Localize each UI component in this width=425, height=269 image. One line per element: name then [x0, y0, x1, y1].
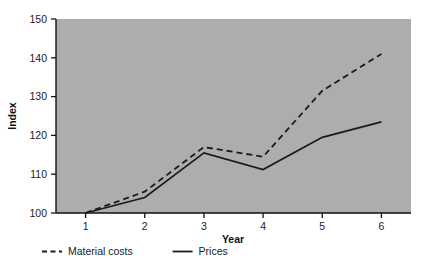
y-tick-label-100: 100 — [29, 207, 47, 219]
line-chart: 100110120130140150 123456 Index Year Mat… — [0, 0, 425, 269]
y-tick-label-150: 150 — [29, 13, 47, 25]
y-tick-label-110: 110 — [30, 168, 47, 180]
chart-canvas: 100110120130140150 123456 Index Year Mat… — [0, 0, 425, 269]
legend-label-material-costs: Material costs — [68, 245, 133, 257]
x-tick-label-4: 4 — [260, 220, 266, 232]
x-tick-label-6: 6 — [378, 220, 384, 232]
plot-area-background — [56, 19, 411, 213]
x-tick-label-3: 3 — [201, 220, 207, 232]
x-tick-label-2: 2 — [142, 220, 148, 232]
x-tick-label-1: 1 — [83, 220, 89, 232]
y-tick-label-130: 130 — [29, 90, 47, 102]
y-axis-title: Index — [6, 102, 18, 130]
x-tick-label-5: 5 — [319, 220, 325, 232]
x-axis-title: Year — [222, 233, 244, 245]
legend-label-prices: Prices — [199, 245, 228, 257]
y-tick-label-120: 120 — [29, 129, 47, 141]
y-tick-label-140: 140 — [29, 52, 47, 64]
